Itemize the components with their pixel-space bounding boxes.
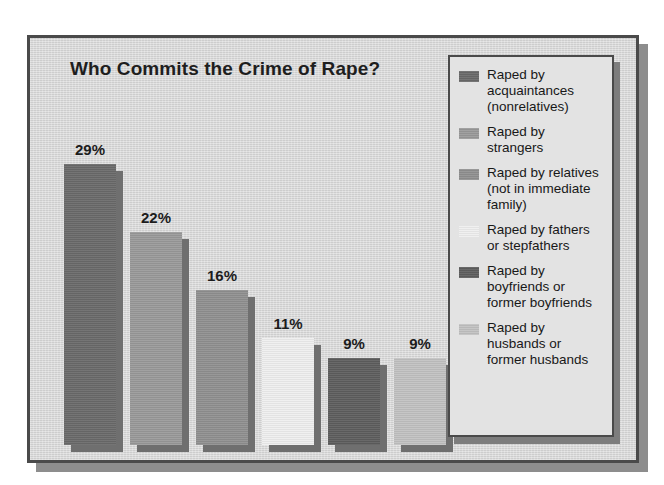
legend-swatch-icon <box>459 128 479 139</box>
bar-2: 22% <box>130 232 182 445</box>
bar-rect <box>262 338 314 445</box>
legend-item-6: Raped by husbands or former husbands <box>459 320 604 368</box>
legend-item-label: Raped by acquaintances (nonrelatives) <box>487 67 604 115</box>
plot-area: 29%22%16%11%9%9% <box>44 90 448 450</box>
legend-swatch-icon <box>459 169 479 180</box>
bar-rect <box>130 232 182 445</box>
bar-value-label: 22% <box>130 209 182 226</box>
legend-item-label: Raped by husbands or former husbands <box>487 320 604 368</box>
bar-5: 9% <box>328 358 380 445</box>
bar-6: 9% <box>394 358 446 445</box>
legend-item-label: Raped by boyfriends or former boyfriends <box>487 263 604 311</box>
bar-rect <box>394 358 446 445</box>
bar-rect <box>196 290 248 445</box>
legend-item-label: Raped by relatives (not in immediate fam… <box>487 165 604 213</box>
bar-value-label: 9% <box>394 335 446 352</box>
legend-item-5: Raped by boyfriends or former boyfriends <box>459 263 604 311</box>
bar-value-label: 9% <box>328 335 380 352</box>
bar-rect <box>328 358 380 445</box>
bar-3: 16% <box>196 290 248 445</box>
legend-item-1: Raped by acquaintances (nonrelatives) <box>459 67 604 115</box>
legend-swatch-icon <box>459 71 479 82</box>
chart-legend: Raped by acquaintances (nonrelatives)Rap… <box>448 55 614 437</box>
chart-figure-frame: Who Commits the Crime of Rape? 29%22%16%… <box>27 35 639 463</box>
bar-rect <box>64 164 116 445</box>
bar-4: 11% <box>262 338 314 445</box>
chart-title: Who Commits the Crime of Rape? <box>70 58 430 80</box>
legend-swatch-icon <box>459 324 479 335</box>
bar-value-label: 11% <box>262 315 314 332</box>
legend-item-label: Raped by fathers or stepfathers <box>487 222 604 254</box>
legend-item-4: Raped by fathers or stepfathers <box>459 222 604 254</box>
bar-value-label: 16% <box>196 267 248 284</box>
bar-value-label: 29% <box>64 141 116 158</box>
legend-item-label: Raped by strangers <box>487 124 604 156</box>
legend-item-3: Raped by relatives (not in immediate fam… <box>459 165 604 213</box>
legend-swatch-icon <box>459 267 479 278</box>
legend-item-2: Raped by strangers <box>459 124 604 156</box>
legend-swatch-icon <box>459 226 479 237</box>
bar-1: 29% <box>64 164 116 445</box>
chart-canvas: Who Commits the Crime of Rape? 29%22%16%… <box>30 38 636 460</box>
